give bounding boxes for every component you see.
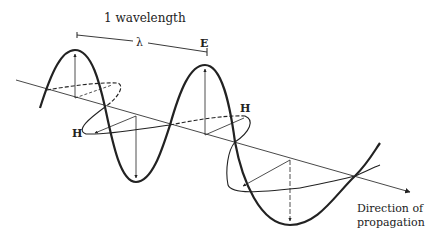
lambda-symbol: λ bbox=[136, 36, 143, 49]
direction-label-line1: Direction of bbox=[357, 202, 424, 215]
h-field-label-left: H bbox=[72, 127, 82, 140]
direction-label-line2: propagation bbox=[357, 216, 425, 229]
e-field-vectors bbox=[75, 54, 290, 221]
e-field-label: E bbox=[200, 37, 208, 50]
h-field-label-right: H bbox=[240, 102, 250, 115]
h-field-vectors bbox=[75, 85, 290, 186]
em-wave-diagram: 1 wavelength λ E H H Direction of propag… bbox=[0, 0, 430, 240]
e-field-wave bbox=[40, 50, 380, 225]
h-field-wave bbox=[47, 83, 380, 192]
wavelength-label: 1 wavelength bbox=[104, 11, 186, 25]
